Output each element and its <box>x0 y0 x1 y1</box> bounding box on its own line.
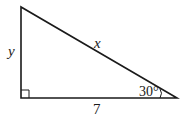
angle-arc <box>160 89 162 98</box>
label-base: 7 <box>93 101 101 117</box>
triangle-diagram: y x 7 30° <box>0 0 185 118</box>
label-angle: 30° <box>139 84 159 99</box>
right-angle-marker <box>21 90 29 98</box>
label-x: x <box>93 35 101 51</box>
label-y: y <box>6 43 15 59</box>
